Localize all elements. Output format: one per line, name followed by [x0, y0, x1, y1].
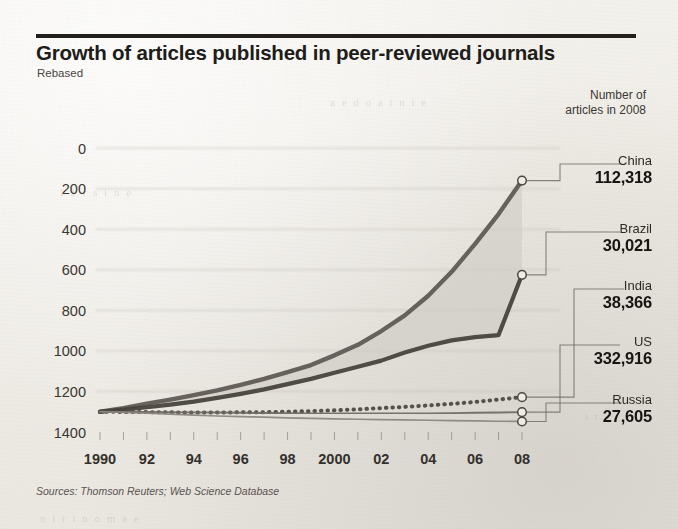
callout-india: India 38,366: [504, 278, 652, 312]
y-axis-tick-labels: 1400120010008006004002000: [54, 141, 86, 441]
callout-india-name: India: [504, 278, 652, 293]
callout-russia-value: 27,605: [504, 407, 652, 426]
callout-us-name: US: [504, 334, 652, 349]
callout-china: China 112,318: [504, 153, 652, 187]
y-tick-400: 1000: [54, 343, 86, 359]
y-tick-800: 600: [62, 262, 86, 278]
y-tick-1400: 0: [78, 141, 86, 157]
x-axis-tick-labels: 199092949698200002040608: [84, 451, 530, 467]
x-tick-06: 06: [467, 451, 483, 467]
x-tick-96: 96: [233, 451, 249, 467]
callout-russia: Russia 27,605: [504, 392, 652, 426]
x-tick-08: 08: [514, 451, 530, 467]
x-tick-98: 98: [279, 451, 295, 467]
chart-figure: Growth of articles published in peer-rev…: [0, 0, 678, 529]
x-tick-02: 02: [373, 451, 389, 467]
callout-us-value: 332,916: [504, 349, 652, 368]
x-tick-94: 94: [186, 451, 202, 467]
x-tick-2000: 2000: [318, 451, 350, 467]
callout-brazil: Brazil 30,021: [504, 221, 652, 255]
chart-plot-area: 1400120010008006004002000 19909294969820…: [0, 0, 678, 529]
x-tick-1990: 1990: [84, 451, 116, 467]
callout-china-value: 112,318: [504, 168, 652, 187]
x-axis-ticks: [100, 432, 522, 440]
y-tick-600: 800: [62, 303, 86, 319]
callout-brazil-name: Brazil: [504, 221, 652, 236]
x-tick-92: 92: [139, 451, 155, 467]
source-note: Sources: Thomson Reuters; Web Science Da…: [36, 485, 279, 497]
y-tick-1200: 200: [62, 181, 86, 197]
callout-india-value: 38,366: [504, 293, 652, 312]
callout-russia-name: Russia: [504, 392, 652, 407]
y-tick-0: 1400: [54, 425, 86, 441]
callout-brazil-value: 30,021: [504, 236, 652, 255]
callout-china-name: China: [504, 153, 652, 168]
y-tick-1000: 400: [62, 222, 86, 238]
x-tick-04: 04: [420, 451, 436, 467]
callout-us: US 332,916: [504, 334, 652, 368]
y-tick-200: 1200: [54, 384, 86, 400]
